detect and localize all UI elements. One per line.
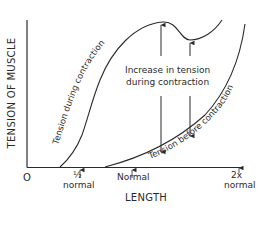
passive-curve-label: Tension before contraction	[146, 83, 235, 161]
active-curve-label: Tension during contraction	[50, 38, 106, 147]
x-axis-label: LENGTH	[125, 193, 167, 203]
origin-label: O	[23, 173, 31, 183]
tick-label-normal: Normal	[117, 173, 150, 182]
increase-annotation: Increase in tension during contraction	[123, 64, 212, 88]
tick-label-half: ½	[73, 171, 82, 180]
tick-label-2x: 2x	[231, 171, 242, 180]
annotation-line-1: Increase in tension	[125, 64, 210, 76]
active-tension-curve	[60, 20, 222, 167]
annotation-line-2: during contraction	[125, 76, 210, 88]
tick-label-2x-normal: normal	[224, 181, 256, 190]
tick-label-half-normal: normal	[63, 181, 95, 190]
y-axis-label: TENSION OF MUSCLE	[7, 38, 17, 149]
